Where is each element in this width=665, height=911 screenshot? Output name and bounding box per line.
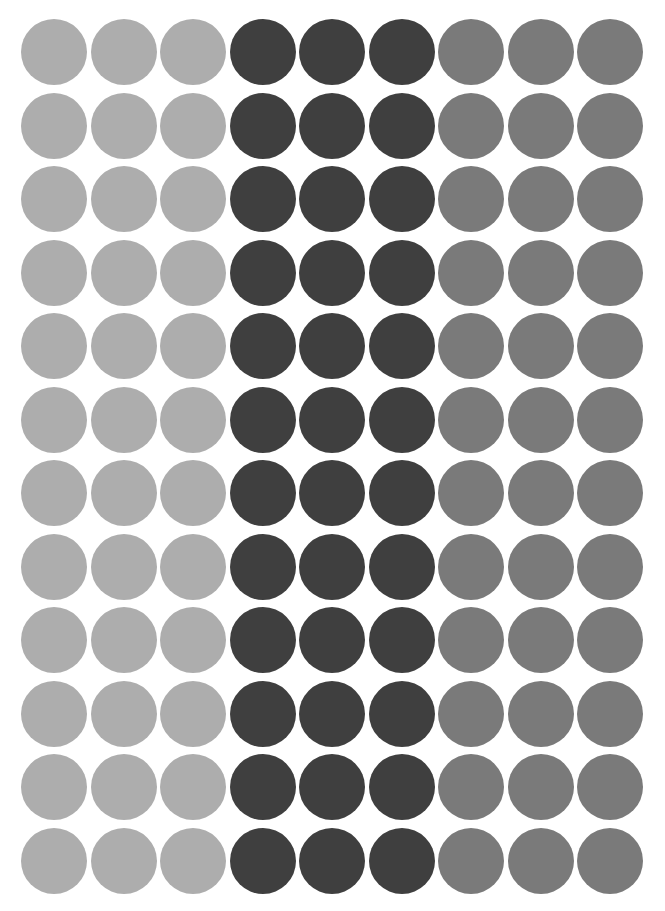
light-gray-circle [91,460,157,526]
dark-gray-circle [299,240,365,306]
medium-gray-circle [438,240,504,306]
light-gray-circle [91,828,157,894]
dark-gray-circle [369,607,435,673]
light-gray-circle [160,240,226,306]
medium-gray-circle [438,607,504,673]
dark-gray-circle [299,681,365,747]
medium-gray-circle [508,607,574,673]
dark-gray-circle [369,828,435,894]
light-gray-circle [160,387,226,453]
medium-gray-circle [508,19,574,85]
medium-gray-circle [508,754,574,820]
dark-gray-circle [299,754,365,820]
circle-grid [0,0,665,911]
light-gray-circle [21,681,87,747]
light-gray-circle [91,313,157,379]
dark-gray-circle [299,313,365,379]
dark-gray-circle [299,387,365,453]
medium-gray-circle [577,313,643,379]
dark-gray-circle [230,19,296,85]
medium-gray-circle [508,460,574,526]
dark-gray-circle [230,607,296,673]
dark-gray-circle [230,754,296,820]
dark-gray-circle [230,828,296,894]
light-gray-circle [21,240,87,306]
light-gray-circle [91,240,157,306]
medium-gray-circle [577,93,643,159]
medium-gray-circle [508,93,574,159]
light-gray-circle [160,754,226,820]
light-gray-circle [21,19,87,85]
medium-gray-circle [438,313,504,379]
medium-gray-circle [438,460,504,526]
dark-gray-circle [369,387,435,453]
dark-gray-circle [369,681,435,747]
medium-gray-circle [577,534,643,600]
light-gray-circle [91,534,157,600]
light-gray-circle [160,460,226,526]
medium-gray-circle [508,166,574,232]
medium-gray-circle [508,534,574,600]
light-gray-circle [21,828,87,894]
medium-gray-circle [577,681,643,747]
medium-gray-circle [508,387,574,453]
medium-gray-circle [438,387,504,453]
dark-gray-circle [299,460,365,526]
light-gray-circle [21,607,87,673]
dark-gray-circle [299,828,365,894]
light-gray-circle [21,93,87,159]
dark-gray-circle [369,93,435,159]
light-gray-circle [21,387,87,453]
light-gray-circle [160,93,226,159]
light-gray-circle [91,93,157,159]
medium-gray-circle [438,93,504,159]
light-gray-circle [91,681,157,747]
light-gray-circle [91,19,157,85]
dark-gray-circle [230,240,296,306]
dark-gray-circle [369,460,435,526]
dark-gray-circle [369,534,435,600]
medium-gray-circle [438,166,504,232]
medium-gray-circle [577,754,643,820]
dark-gray-circle [299,607,365,673]
light-gray-circle [160,607,226,673]
light-gray-circle [21,534,87,600]
dark-gray-circle [369,754,435,820]
dark-gray-circle [369,19,435,85]
dark-gray-circle [369,240,435,306]
dark-gray-circle [230,681,296,747]
medium-gray-circle [438,534,504,600]
medium-gray-circle [577,166,643,232]
dark-gray-circle [369,313,435,379]
dark-gray-circle [299,93,365,159]
light-gray-circle [21,313,87,379]
medium-gray-circle [577,19,643,85]
light-gray-circle [160,313,226,379]
light-gray-circle [91,166,157,232]
medium-gray-circle [438,754,504,820]
dark-gray-circle [230,93,296,159]
light-gray-circle [21,754,87,820]
medium-gray-circle [508,313,574,379]
medium-gray-circle [577,240,643,306]
light-gray-circle [21,166,87,232]
light-gray-circle [91,387,157,453]
light-gray-circle [21,460,87,526]
dark-gray-circle [230,534,296,600]
light-gray-circle [160,681,226,747]
medium-gray-circle [508,681,574,747]
medium-gray-circle [508,828,574,894]
dark-gray-circle [299,166,365,232]
medium-gray-circle [577,607,643,673]
dark-gray-circle [369,166,435,232]
medium-gray-circle [577,828,643,894]
medium-gray-circle [577,387,643,453]
medium-gray-circle [438,828,504,894]
medium-gray-circle [438,19,504,85]
medium-gray-circle [577,460,643,526]
medium-gray-circle [508,240,574,306]
dark-gray-circle [230,460,296,526]
dark-gray-circle [299,534,365,600]
light-gray-circle [91,607,157,673]
light-gray-circle [160,534,226,600]
